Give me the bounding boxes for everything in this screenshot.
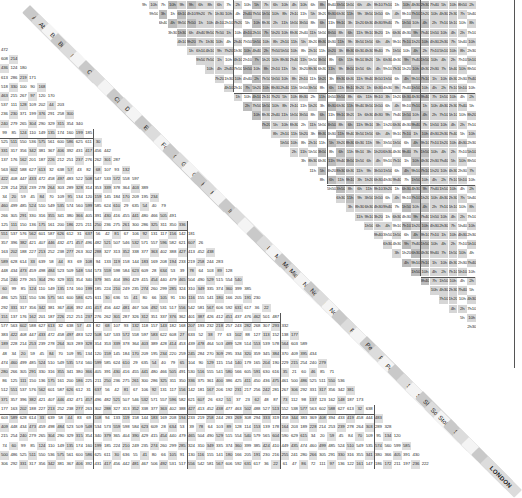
time-cell: 11h (308, 75, 317, 83)
distance-cell: 243 (234, 322, 243, 331)
distance-cell: 120 (84, 193, 93, 202)
time-cell: 7h40 (392, 111, 401, 119)
time-cell: 10h (439, 259, 448, 267)
distance-cell: 474 (299, 442, 308, 451)
time-cell: 7h10 (402, 38, 411, 46)
distance-cell: 132 (131, 322, 140, 331)
distance-cell: 558 (122, 175, 131, 184)
time-cell: 4h (411, 47, 420, 55)
distance-cell: 300 (65, 110, 74, 119)
time-cell: 7h50 (187, 19, 196, 27)
distance-cell: 44 (47, 101, 56, 110)
time-cell: 4h (402, 167, 411, 175)
time-cell: 8h (318, 1, 327, 9)
distance-cell: 219 (187, 258, 196, 267)
distance-cell: 383 (299, 414, 308, 423)
grid-divider (187, 221, 188, 469)
distance-cell: 575 (37, 138, 46, 147)
distance-cell: 524 (37, 359, 46, 368)
time-cell: 3h20 (355, 84, 364, 92)
distance-cell: 200 (65, 377, 74, 386)
distance-cell: 123 (318, 396, 327, 405)
distance-cell: 628 (19, 414, 28, 423)
time-cell: 4h (458, 277, 467, 285)
time-cell: 9h10 (392, 38, 401, 46)
distance-cell: 477 (224, 405, 233, 414)
distance-cell: 258 (56, 110, 65, 119)
time-cell: 10h (449, 185, 458, 193)
distance-cell: 111 (318, 460, 327, 469)
time-cell: 9h20 (196, 10, 205, 18)
time-cell: 10h (168, 1, 177, 9)
time-cell: 10h (280, 121, 289, 129)
distance-cell: 137 (309, 396, 318, 405)
time-cell: 11h (327, 19, 336, 27)
distance-cell: 390 (122, 276, 131, 285)
distance-cell: 266 (0, 212, 9, 221)
time-cell: 5h50 (299, 84, 308, 92)
distance-cell: 575 (47, 294, 56, 303)
distance-cell: 392 (84, 460, 93, 469)
time-cell: 7h10 (458, 148, 467, 156)
distance-cell: 301 (112, 313, 121, 322)
time-cell: 10h (290, 47, 299, 55)
distance-cell: 84 (37, 193, 46, 202)
time-cell: 4h30 (439, 10, 448, 18)
distance-cell: 201 (28, 156, 37, 165)
time-cell: 7h10 (392, 157, 401, 165)
distance-cell: 439 (187, 340, 196, 349)
time-cell: 5h (290, 65, 299, 73)
time-cell: 5h (467, 286, 476, 294)
time-cell: 3h20 (336, 139, 345, 147)
distance-cell: 516 (196, 368, 205, 377)
distance-cell: 485 (327, 442, 336, 451)
time-cell: 7h10 (439, 111, 448, 119)
distance-cell: 498 (47, 423, 56, 432)
time-cell: 7h20 (262, 121, 271, 129)
time-cell: 1h50 (355, 157, 364, 165)
distance-cell: 600 (65, 294, 74, 303)
distance-cell: 310 (187, 285, 196, 294)
time-cell: 4h30 (411, 185, 420, 193)
time-cell: 3h50 (374, 75, 383, 83)
distance-cell: 360 (234, 442, 243, 451)
distance-cell: 341 (365, 451, 374, 460)
distance-cell: 54 (140, 202, 149, 211)
distance-cell: 72 (309, 460, 318, 469)
distance-cell: 120 (393, 432, 402, 441)
distance-cell: 562 (28, 230, 37, 239)
distance-cell: 357 (9, 396, 18, 405)
distance-cell: 233 (187, 414, 196, 423)
distance-cell: 601 (47, 386, 56, 395)
time-cell: 7h40 (402, 84, 411, 92)
distance-cell: 21 (290, 368, 299, 377)
time-cell: 5h (308, 10, 317, 18)
time-cell: 8h (346, 93, 355, 101)
distance-cell: 266 (309, 451, 318, 460)
distance-cell: 42 (112, 386, 121, 395)
distance-cell: 338 (131, 248, 140, 257)
distance-cell: 549 (355, 442, 364, 451)
distance-cell: 44 (65, 414, 74, 423)
distance-cell: 592 (234, 460, 243, 469)
distance-cell: 550 (37, 451, 46, 460)
distance-cell: 429 (131, 276, 140, 285)
distance-cell: 275 (122, 377, 131, 386)
distance-cell: 253 (28, 340, 37, 349)
time-cell: 5h20 (318, 75, 327, 83)
time-cell: 7h (439, 65, 448, 73)
time-cell: 2h (252, 75, 261, 83)
distance-cell: 169 (159, 414, 168, 423)
time-cell: 10h (430, 194, 439, 202)
time-cell: 4h30 (402, 121, 411, 129)
time-cell: 7h10 (439, 203, 448, 211)
distance-cell: 636 (112, 294, 121, 303)
distance-cell: 257 (224, 322, 233, 331)
time-cell: 2h30 (439, 38, 448, 46)
distance-cell: 464 (206, 340, 215, 349)
distance-cell: 175 (37, 221, 46, 230)
time-cell: 7h (449, 38, 458, 46)
time-cell: 6h (355, 1, 364, 9)
distance-cell: 180 (224, 451, 233, 460)
distance-cell: 97 (327, 460, 336, 469)
